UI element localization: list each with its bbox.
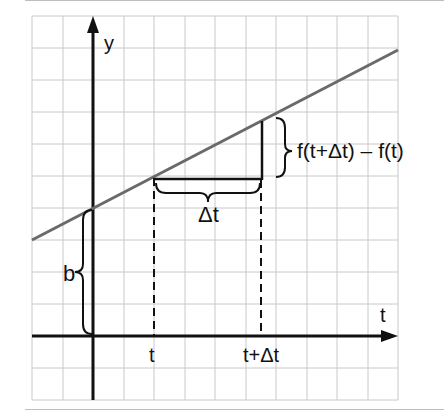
x-axis-label: t <box>380 304 386 326</box>
delta-t-brace <box>156 183 260 202</box>
intercept-label: b <box>63 261 75 286</box>
delta-f-brace <box>276 118 292 177</box>
t-plus-dt-tick-label: t+Δt <box>243 344 280 366</box>
y-axis-label: y <box>104 32 114 54</box>
delta-t-label: Δt <box>198 202 219 227</box>
linear-function-diagram: y t b t t+Δt Δt f(t+Δt) – f(t) <box>0 0 444 418</box>
y-axis-arrow-icon <box>87 16 99 33</box>
x-axis-arrow-icon <box>381 330 398 342</box>
t-tick-label: t <box>149 344 155 366</box>
delta-f-label: f(t+Δt) – f(t) <box>297 139 404 162</box>
